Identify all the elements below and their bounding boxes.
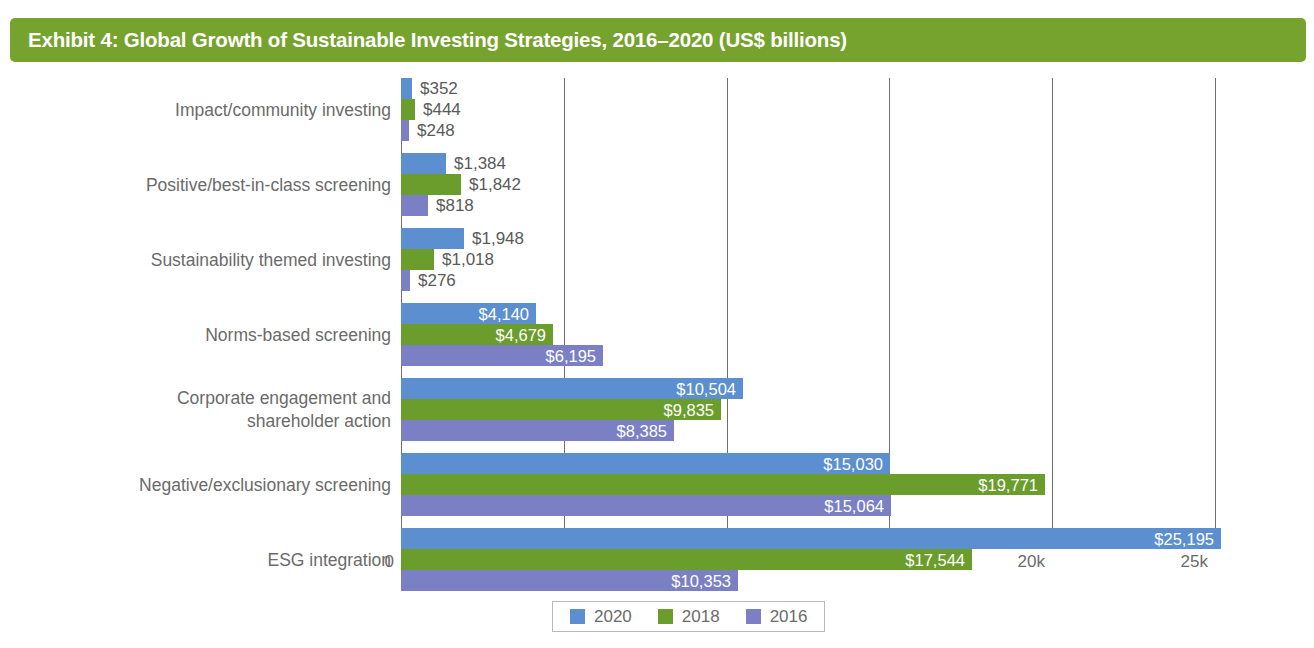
bar-value-label: $17,544 (905, 550, 965, 569)
bar-value-label: $276 (410, 271, 456, 291)
bar-value-label: $1,018 (434, 250, 494, 270)
bar-chart: 05k10k15k20k25k Impact/community investi… (0, 0, 1314, 648)
bar-value-label: $352 (412, 79, 458, 99)
category-label: Norms-based screening (0, 303, 401, 366)
bar-value-label: $15,030 (823, 454, 883, 473)
bar-row: $17,544 (401, 549, 972, 570)
bar-row: $352 (401, 78, 412, 99)
bar-value-label: $444 (415, 100, 461, 120)
bar-value-label: $1,842 (461, 175, 521, 195)
bar-row: $19,771 (401, 474, 1045, 495)
bar-value-label: $10,504 (676, 379, 736, 398)
bar-group: Impact/community investing$352$444$248 (0, 78, 1314, 141)
legend-label: 2018 (682, 607, 720, 627)
bar-row: $15,030 (401, 453, 890, 474)
bar-value-label: $10,353 (671, 571, 731, 590)
bar-2018 (401, 99, 415, 120)
bar-2018 (401, 174, 461, 195)
bar-row: $1,018 (401, 249, 434, 270)
category-label: Corporate engagement and shareholder act… (0, 378, 401, 441)
category-label-text: ESG integration (41, 548, 391, 571)
legend-label: 2016 (770, 607, 808, 627)
bar-row: $1,948 (401, 228, 464, 249)
legend-swatch-icon (570, 609, 585, 624)
legend-item-2016[interactable]: 2016 (746, 607, 808, 627)
bar-row: $4,679 (401, 324, 553, 345)
bar-value-label: $4,140 (479, 304, 529, 323)
chart-legend: 202020182016 (552, 601, 825, 632)
category-label-text: Norms-based screening (41, 323, 391, 346)
bar-value-label: $6,195 (546, 346, 596, 365)
bar-row: $248 (401, 120, 409, 141)
category-label: Negative/exclusionary screening (0, 453, 401, 516)
bar-group: Corporate engagement and shareholder act… (0, 378, 1314, 441)
bar-2020 (401, 228, 464, 249)
bar-2020 (401, 153, 446, 174)
bar-value-label: $25,195 (1154, 529, 1214, 548)
bar-2016 (401, 495, 891, 516)
bar-2016 (401, 270, 410, 291)
bar-row: $6,195 (401, 345, 603, 366)
category-label-text: Negative/exclusionary screening (41, 473, 391, 496)
category-label-text: Corporate engagement and shareholder act… (41, 387, 391, 433)
bar-2018 (401, 249, 434, 270)
bar-2020 (401, 78, 412, 99)
category-label: Positive/best-in-class screening (0, 153, 401, 216)
bar-row: $25,195 (401, 528, 1221, 549)
bar-2016 (401, 120, 409, 141)
bar-value-label: $248 (409, 121, 455, 141)
bar-group: Sustainability themed investing$1,948$1,… (0, 228, 1314, 291)
category-label: Impact/community investing (0, 78, 401, 141)
bar-row: $818 (401, 195, 428, 216)
bar-value-label: $1,948 (464, 229, 524, 249)
bar-value-label: $9,835 (664, 400, 714, 419)
bar-group: Negative/exclusionary screening$15,030$1… (0, 453, 1314, 516)
bar-row: $10,504 (401, 378, 743, 399)
bar-row: $1,842 (401, 174, 461, 195)
bar-value-label: $15,064 (824, 496, 884, 515)
bar-row: $9,835 (401, 399, 721, 420)
legend-item-2020[interactable]: 2020 (570, 607, 632, 627)
legend-swatch-icon (658, 609, 673, 624)
bar-value-label: $19,771 (978, 475, 1038, 494)
legend-item-2018[interactable]: 2018 (658, 607, 720, 627)
bar-row: $1,384 (401, 153, 446, 174)
legend-swatch-icon (746, 609, 761, 624)
category-label: Sustainability themed investing (0, 228, 401, 291)
bar-2018 (401, 549, 972, 570)
bar-row: $10,353 (401, 570, 738, 591)
bar-2018 (401, 474, 1045, 495)
bar-row: $4,140 (401, 303, 536, 324)
bar-value-label: $4,679 (496, 325, 546, 344)
bar-group: Norms-based screening$4,140$4,679$6,195 (0, 303, 1314, 366)
category-label-text: Impact/community investing (41, 98, 391, 121)
category-label: ESG integration (0, 528, 401, 591)
bar-value-label: $818 (428, 196, 474, 216)
bar-value-label: $1,384 (446, 154, 506, 174)
bar-2020 (401, 528, 1221, 549)
bar-row: $444 (401, 99, 415, 120)
category-label-text: Sustainability themed investing (41, 248, 391, 271)
bar-group: Positive/best-in-class screening$1,384$1… (0, 153, 1314, 216)
bar-row: $8,385 (401, 420, 674, 441)
bar-value-label: $8,385 (617, 421, 667, 440)
bar-2020 (401, 453, 890, 474)
bar-group: ESG integration$25,195$17,544$10,353 (0, 528, 1314, 591)
bar-row: $276 (401, 270, 410, 291)
bar-2016 (401, 195, 428, 216)
bar-row: $15,064 (401, 495, 891, 516)
legend-label: 2020 (594, 607, 632, 627)
category-label-text: Positive/best-in-class screening (41, 173, 391, 196)
